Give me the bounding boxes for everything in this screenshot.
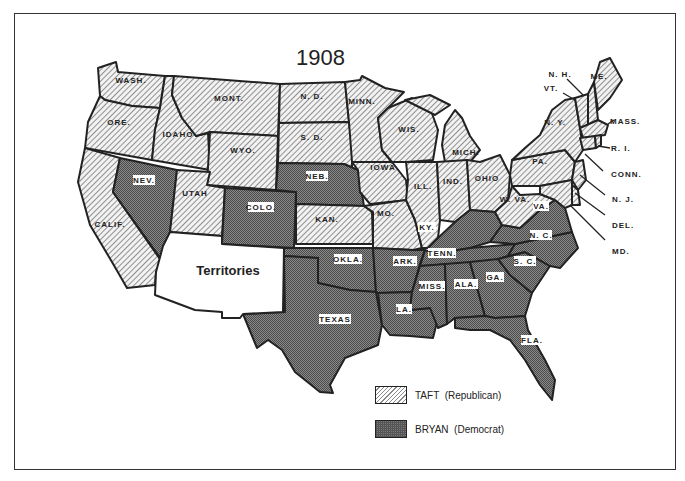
label-utah: UTAH — [182, 189, 208, 198]
label-ill: ILL. — [414, 182, 432, 191]
label-neb: NEB. — [305, 172, 328, 181]
label-okla: OKLA. — [333, 255, 363, 264]
label-ore: ORE. — [107, 118, 131, 127]
label-va: VA. — [533, 202, 549, 211]
label-wva: W. VA. — [500, 195, 530, 204]
label-mont: MONT. — [214, 94, 244, 103]
label-del: DEL. — [612, 221, 634, 230]
label-sc: S. C. — [514, 257, 537, 266]
label-nh: N. H. — [548, 70, 571, 79]
taft-swatch — [375, 386, 407, 404]
state-kan[interactable] — [296, 204, 373, 244]
legend: TAFT (Republican) BRYAN (Democrat) — [375, 385, 504, 453]
state-conn[interactable] — [580, 136, 596, 150]
label-kan: KAN. — [315, 215, 339, 224]
state-sd[interactable] — [278, 122, 352, 168]
state-colo[interactable] — [222, 188, 296, 248]
label-ny: N. Y. — [544, 118, 566, 127]
label-wis: WIS. — [398, 125, 419, 134]
label-minn: MINN. — [348, 97, 376, 106]
bryan-swatch — [375, 420, 407, 438]
label-miss: MISS. — [419, 282, 446, 291]
legend-item-bryan: BRYAN (Democrat) — [375, 419, 504, 439]
state-mont[interactable] — [172, 76, 280, 136]
label-ala: ALA. — [455, 280, 478, 289]
label-ark: ARK. — [393, 257, 417, 266]
state-wyo[interactable] — [207, 132, 278, 190]
label-ky: KY. — [419, 223, 434, 232]
label-nd: N. D. — [300, 92, 323, 101]
state-nd[interactable] — [279, 82, 349, 123]
label-ri: R. I. — [611, 144, 631, 153]
state-me[interactable] — [594, 58, 622, 110]
label-me: ME. — [590, 72, 607, 81]
legend-label-taft: TAFT (Republican) — [415, 390, 501, 401]
label-md: MD. — [612, 247, 630, 256]
label-calif: CALIF. — [95, 220, 126, 229]
legend-item-taft: TAFT (Republican) — [375, 385, 504, 405]
label-vt: VT. — [544, 84, 559, 93]
label-nev: NEV. — [133, 176, 155, 185]
label-nc: N. C. — [529, 231, 552, 240]
label-pa: PA. — [532, 157, 548, 166]
label-wash: WASH. — [115, 76, 146, 85]
label-mass: MASS. — [610, 117, 640, 126]
label-mich: MICH. — [452, 148, 480, 157]
label-ga: GA. — [486, 273, 503, 282]
label-idaho: IDAHO — [163, 130, 194, 139]
label-mo: MO. — [377, 209, 395, 218]
label-wyo: WYO. — [230, 146, 255, 155]
legend-label-bryan: BRYAN (Democrat) — [415, 424, 504, 435]
label-sd: S. D. — [301, 133, 324, 142]
label-ohio: OHIO — [475, 174, 499, 183]
label-conn: CONN. — [611, 170, 642, 179]
label-la: LA. — [396, 305, 412, 314]
territories-label: Territories — [196, 263, 259, 278]
label-fla: FLA. — [521, 336, 543, 345]
us-election-map: Territories WASH. ORE. CALIF. IDAHO MONT… — [0, 0, 685, 481]
label-iowa: IOWA — [370, 163, 395, 172]
label-nj: N. J. — [612, 195, 634, 204]
label-colo: COLO. — [246, 203, 276, 212]
label-texas: TEXAS — [319, 315, 351, 324]
label-ind: IND. — [443, 177, 463, 186]
label-tenn: TENN. — [428, 249, 457, 258]
state-ny[interactable] — [512, 98, 583, 162]
